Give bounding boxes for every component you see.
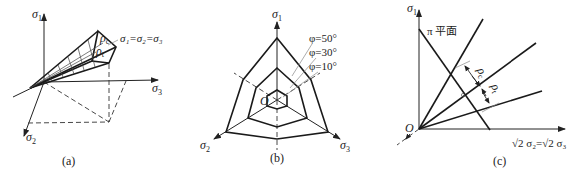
sigma3-axis <box>44 80 158 82</box>
origin-label-b: O <box>260 94 269 108</box>
rho-t-arrow-down <box>483 93 489 103</box>
hydrostatic-label: σ₁=σ₂=σ₃ <box>120 32 163 44</box>
sigma3-label: σ3 <box>152 81 162 97</box>
rho-t-label-c: ρt <box>487 80 505 95</box>
sigma2-label-b: σ2 <box>200 138 210 154</box>
origin-label-c: O <box>405 121 414 135</box>
sigma1-label-c: σ1 <box>407 1 417 17</box>
phi10-label: φ=10° <box>309 60 337 72</box>
hydrostatic-axis-c <box>419 43 536 129</box>
sigma1-label: σ1 <box>32 7 42 23</box>
figure-canvas: σ1 σ3 σ2 ρc ρt σ₁=σ₂=σ₃ (a) σ1 σ2 σ3 O φ… <box>0 0 576 180</box>
panel-c: ρc ρt σ1 π 平面 O √2 σ₂=√2 σ₃ (c) <box>397 1 566 168</box>
rho-t-ext-bottom <box>482 103 499 112</box>
rho-t-label: ρt <box>95 44 105 59</box>
caption-c: (c) <box>493 154 506 168</box>
phi50-label: φ=50° <box>309 32 337 44</box>
sigma2-label: σ2 <box>26 130 36 146</box>
sigma3-label-b: σ3 <box>340 138 350 154</box>
caption-b: (b) <box>270 151 284 165</box>
pi-plane-line <box>419 29 490 130</box>
horizontal-axis-label: √2 σ₂=√2 σ₃ <box>512 137 566 149</box>
panel-b: σ1 σ2 σ3 O φ=50° φ=30° φ=10° (b) <box>200 7 350 165</box>
panel-a: σ1 σ3 σ2 ρc ρt σ₁=σ₂=σ₃ (a) <box>13 7 163 168</box>
phi30-label: φ=30° <box>309 46 337 58</box>
pi-plane-label: π 平面 <box>427 25 457 37</box>
sigma1-label-b: σ1 <box>272 7 282 23</box>
caption-a: (a) <box>62 154 75 168</box>
